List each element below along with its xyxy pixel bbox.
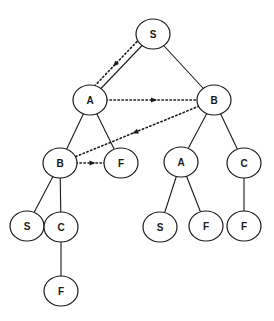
tree-node-b: B bbox=[197, 85, 231, 115]
tree-node-f: F bbox=[44, 276, 78, 306]
tree-node-s: S bbox=[136, 19, 170, 49]
tree-node-a: A bbox=[164, 147, 198, 177]
tree-nodes: SABBFACSCSFFF bbox=[10, 19, 261, 306]
tree-node-f: F bbox=[189, 211, 223, 241]
node-label: S bbox=[150, 29, 157, 40]
tree-node-s: S bbox=[143, 212, 177, 242]
arrowhead-icon bbox=[151, 98, 157, 103]
tree-node-s: S bbox=[10, 211, 44, 241]
tree-node-b: B bbox=[43, 148, 77, 178]
node-label: S bbox=[24, 221, 31, 232]
node-label: F bbox=[203, 221, 209, 232]
node-label: B bbox=[210, 95, 217, 106]
node-label: B bbox=[56, 158, 63, 169]
tree-node-f: F bbox=[104, 148, 138, 178]
node-label: F bbox=[241, 221, 247, 232]
arrowhead-icon bbox=[132, 129, 138, 134]
tree-node-c: C bbox=[44, 212, 78, 242]
search-tree-diagram: SABBFACSCSFFF bbox=[0, 0, 274, 321]
node-label: C bbox=[240, 158, 247, 169]
node-label: F bbox=[118, 158, 124, 169]
tree-node-f: F bbox=[227, 211, 261, 241]
node-label: A bbox=[86, 95, 93, 106]
node-label: S bbox=[157, 222, 164, 233]
node-label: C bbox=[57, 222, 64, 233]
node-label: F bbox=[58, 286, 64, 297]
node-label: A bbox=[177, 157, 184, 168]
tree-node-a: A bbox=[73, 85, 107, 115]
arrowhead-icon bbox=[90, 161, 96, 166]
tree-node-c: C bbox=[227, 148, 261, 178]
